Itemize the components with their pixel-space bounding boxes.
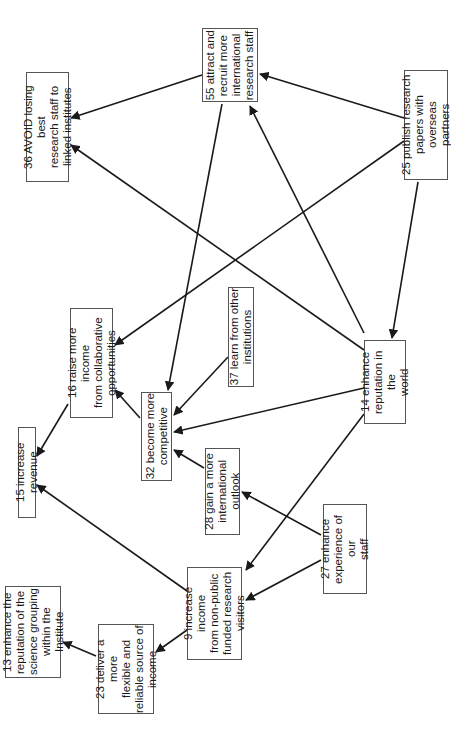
node-label: 13 enhance the reputation of the science… xyxy=(1,587,66,677)
node-16: 16 raise more income from collaborative … xyxy=(70,308,113,418)
node-36: 36 AVOID losing best research staff to l… xyxy=(26,72,69,182)
edge-14-to-32 xyxy=(174,388,364,432)
node-label: 32 become more competitive xyxy=(144,393,170,479)
node-label: 14 enhance reputation in the world xyxy=(359,341,411,423)
edge-9-to-15 xyxy=(37,485,187,591)
node-15: 15 increase revenue xyxy=(18,427,36,518)
edge-32-to-16 xyxy=(115,390,140,418)
edge-25-to-55 xyxy=(260,74,404,118)
node-label: 15 increase revenue xyxy=(14,428,40,517)
edge-27-to-28 xyxy=(242,492,321,535)
node-label: 9 increase income from non-public funded… xyxy=(182,568,247,659)
edge-25-to-14 xyxy=(392,182,418,338)
node-14: 14 enhance reputation in the world xyxy=(364,340,406,424)
edge-16-to-15 xyxy=(37,404,68,456)
node-27: 27 enhance experience of our staff xyxy=(323,504,367,594)
node-28: 28 gain a more international outlook xyxy=(205,448,240,535)
node-label: 28 gain a more international outlook xyxy=(203,453,242,530)
node-25: 25 publish research papers with overseas… xyxy=(404,70,448,180)
node-label: 16 raise more income from collaborative … xyxy=(66,309,118,417)
node-label: 37 learn from other institutions xyxy=(228,288,254,385)
node-13: 13 enhance the reputation of the science… xyxy=(5,586,61,678)
node-label: 23 deliver a more flexible and reliable … xyxy=(94,625,159,713)
node-55: 55 attract and recruit more internationa… xyxy=(202,28,258,102)
edge-55-to-36 xyxy=(71,75,202,118)
edge-37-to-32 xyxy=(174,357,228,415)
node-23: 23 deliver a more flexible and reliable … xyxy=(98,624,154,714)
node-32: 32 become more competitive xyxy=(141,392,172,481)
edge-23-to-13 xyxy=(63,642,96,656)
node-label: 36 AVOID losing best research staff to l… xyxy=(22,73,74,181)
edge-27-to-9 xyxy=(246,560,321,600)
node-label: 27 enhance experience of our staff xyxy=(319,505,371,593)
edge-14-to-55 xyxy=(250,106,364,333)
node-9: 9 increase income from non-public funded… xyxy=(187,567,242,660)
node-label: 55 attract and recruit more internationa… xyxy=(204,30,256,100)
node-label: 25 publish research papers with overseas… xyxy=(400,71,452,179)
cause-map-diagram: 36 AVOID losing best research staff to l… xyxy=(0,0,454,737)
edge-25-to-16 xyxy=(115,141,404,345)
edge-28-to-32 xyxy=(174,450,204,468)
node-37: 37 learn from other institutions xyxy=(228,287,254,387)
edge-55-to-32 xyxy=(168,104,222,390)
